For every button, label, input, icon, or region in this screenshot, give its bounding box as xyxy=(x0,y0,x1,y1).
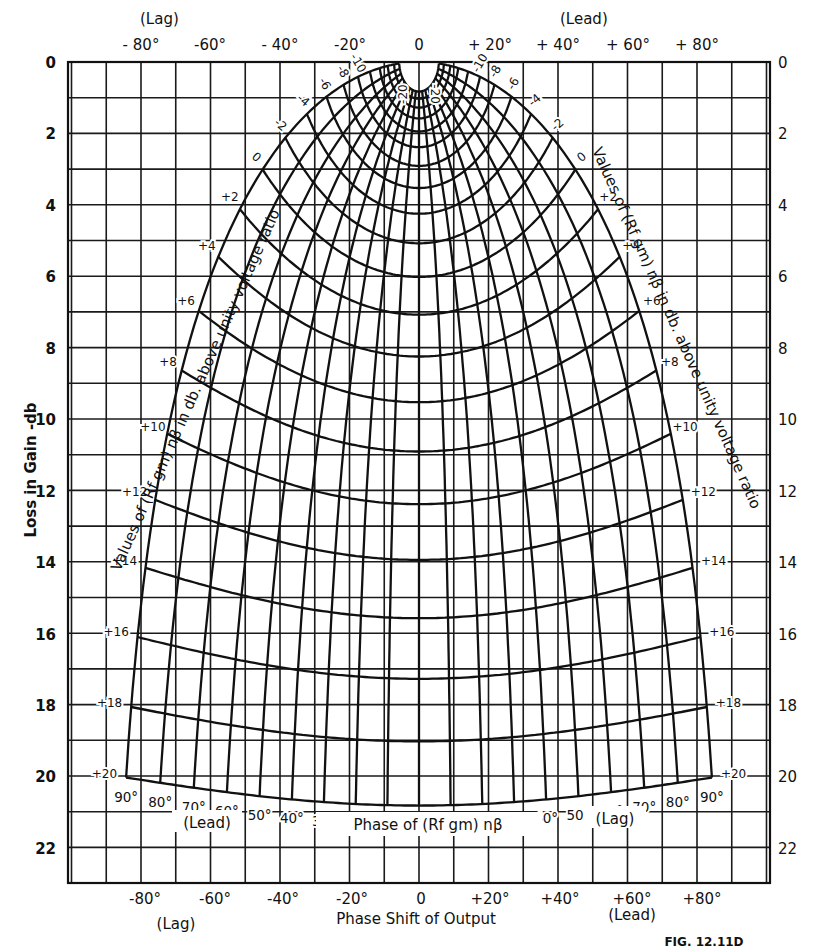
bottom-tick: -40° xyxy=(267,890,299,908)
phase-lead-label: (Lead) xyxy=(183,814,231,832)
left-tick: 4 xyxy=(46,197,56,215)
bottom-tick: -20° xyxy=(336,890,368,908)
left-tick: 20 xyxy=(35,768,56,786)
phase-curve-label: 90° xyxy=(114,789,138,805)
bottom-lag-label: (Lag) xyxy=(157,915,196,933)
bottom-tick: +80° xyxy=(682,890,721,908)
top-axis-ticks: - 80° -60° - 40° -20° 0 + 20° + 40° + 60… xyxy=(123,36,719,54)
gain-curve-label: +10 xyxy=(140,420,165,434)
right-tick: 16 xyxy=(778,626,797,644)
right-axis-ticks: 0 2 4 6 8 10 12 14 16 18 20 22 xyxy=(778,54,797,858)
gain-curve-label: +20 xyxy=(92,767,117,781)
right-tick: 0 xyxy=(778,54,788,72)
right-tick: 14 xyxy=(778,554,797,572)
gain-curve-label: +8 xyxy=(661,355,679,369)
gain-curve-label: +6 xyxy=(177,294,195,308)
gain-curve-label: +12 xyxy=(691,485,716,499)
bottom-tick: -60° xyxy=(199,890,231,908)
right-tick: 18 xyxy=(778,697,797,715)
top-lag-label: (Lag) xyxy=(140,10,179,28)
gain-curve-label: 0 xyxy=(574,149,589,165)
top-tick: + 80° xyxy=(675,36,719,54)
left-tick: 2 xyxy=(46,125,56,143)
gain-curve-label: +16 xyxy=(709,625,734,639)
gain-curve-label: -4 xyxy=(526,91,544,109)
right-tick: 12 xyxy=(778,483,797,501)
gain-curve-label: +10 xyxy=(672,420,697,434)
bottom-tick: -80° xyxy=(129,890,161,908)
phase-curve-label: 80° xyxy=(666,794,690,810)
left-tick: 0 xyxy=(46,54,56,72)
gain-curve-label: +18 xyxy=(97,696,122,710)
bottom-tick: 0 xyxy=(416,890,426,908)
gain-curve-label: +14 xyxy=(701,554,726,568)
top-tick: - 40° xyxy=(262,36,299,54)
gain-curve-label: -20 xyxy=(428,84,442,104)
left-tick: 16 xyxy=(35,626,56,644)
right-tick: 2 xyxy=(778,125,788,143)
figure-label: FIG. 12.11D xyxy=(664,935,743,949)
phase-curve xyxy=(387,91,416,805)
left-axis-title: Loss in Gain -db xyxy=(22,402,40,537)
top-tick: + 40° xyxy=(536,36,580,54)
bottom-axis-title: Phase Shift of Output xyxy=(336,910,496,928)
gain-curve-label: -2 xyxy=(548,115,566,133)
phase-curve-label: 90° xyxy=(700,789,724,805)
gain-curve-label: 0 xyxy=(249,149,264,165)
right-tick: 20 xyxy=(778,768,797,786)
gain-curve-label: -20 xyxy=(396,84,410,104)
phase-lag-label: (Lag) xyxy=(596,810,635,828)
gain-curve-label: +16 xyxy=(104,625,129,639)
top-tick: - 80° xyxy=(123,36,160,54)
left-family-title-group: Values of (Rf gm) nβ in db. above unity … xyxy=(107,206,284,573)
right-tick: 22 xyxy=(778,840,797,858)
gain-curve-label: +2 xyxy=(221,190,239,204)
top-tick: 0 xyxy=(414,36,424,54)
gain-curve-label: -2 xyxy=(271,115,289,133)
gain-curve-label: +18 xyxy=(716,696,741,710)
phase-family-title: Phase of (Rf gm) nβ xyxy=(354,816,503,834)
bottom-tick: +20° xyxy=(470,890,509,908)
left-tick: 22 xyxy=(35,840,56,858)
phase-curve-label: 40° xyxy=(280,810,304,826)
bottom-lead-label: (Lead) xyxy=(608,906,656,924)
left-tick: 8 xyxy=(46,340,56,358)
right-tick: 8 xyxy=(778,340,788,358)
gain-curve-label: -4 xyxy=(294,91,312,109)
top-lead-label: (Lead) xyxy=(560,10,608,28)
phase-curve-label: 80° xyxy=(148,794,172,810)
left-tick: 18 xyxy=(35,697,56,715)
gain-curve-label: +20 xyxy=(721,767,746,781)
right-tick: 4 xyxy=(778,197,788,215)
top-tick: -20° xyxy=(334,36,366,54)
gain-curve-label: +8 xyxy=(159,355,177,369)
phase-curve xyxy=(422,91,451,805)
top-tick: + 20° xyxy=(468,36,512,54)
right-tick: 6 xyxy=(778,268,788,286)
left-family-title: Values of (Rf gm) nβ in db. above unity … xyxy=(107,206,284,573)
gain-curve-label: -6 xyxy=(316,75,334,92)
right-tick: 10 xyxy=(778,411,797,429)
top-tick: -60° xyxy=(194,36,226,54)
left-tick: 6 xyxy=(46,268,56,286)
gain-curve-label: +4 xyxy=(198,239,216,253)
bottom-tick: +40° xyxy=(540,890,579,908)
left-tick: 14 xyxy=(35,554,56,572)
top-tick: + 60° xyxy=(606,36,650,54)
curve-families xyxy=(126,64,712,806)
phase-curve-label: 50° xyxy=(248,807,272,823)
nomograph-chart: (Lag) (Lead) - 80° -60° - 40° -20° 0 + 2… xyxy=(0,0,813,951)
gain-curve-label: -6 xyxy=(504,75,522,92)
